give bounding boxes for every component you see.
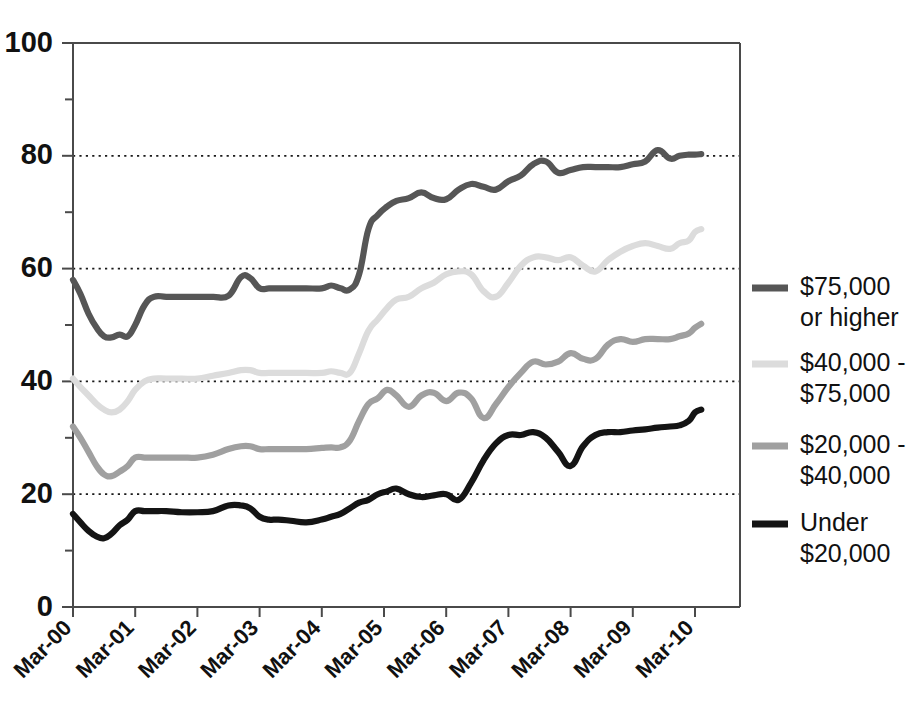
- data-series: [73, 150, 701, 538]
- x-axis-label-Mar-10: Mar-10: [631, 615, 699, 683]
- series-line-20-000-40-000: [73, 324, 701, 477]
- x-axis-label-Mar-08: Mar-08: [506, 615, 574, 683]
- legend-label-0-line1: $75,000: [800, 272, 890, 300]
- x-axis-label-Mar-00: Mar-00: [9, 615, 77, 683]
- x-axis-label-Mar-02: Mar-02: [133, 615, 201, 683]
- y-axis-label-80: 80: [21, 138, 53, 170]
- y-axis-tick-labels: 100806040200: [5, 26, 53, 622]
- legend-label-3-line1: Under: [800, 508, 868, 536]
- y-axis-label-60: 60: [21, 251, 53, 283]
- x-axis-label-Mar-07: Mar-07: [444, 615, 512, 683]
- legend-label-0-line2: or higher: [800, 303, 899, 331]
- x-axis-label-Mar-09: Mar-09: [569, 615, 637, 683]
- y-axis-label-0: 0: [37, 590, 53, 622]
- x-axis-label-Mar-05: Mar-05: [320, 615, 388, 683]
- legend-label-2-line1: $20,000 -: [800, 430, 906, 458]
- legend-label-1-line1: $40,000 -: [800, 348, 906, 376]
- gridlines: [73, 156, 740, 494]
- x-axis-label-Mar-06: Mar-06: [382, 615, 450, 683]
- y-axis-label-20: 20: [21, 477, 53, 509]
- legend-label-3-line2: $20,000: [800, 539, 890, 567]
- y-axis-label-40: 40: [21, 364, 53, 396]
- x-axis-label-Mar-03: Mar-03: [195, 615, 263, 683]
- x-axis-label-Mar-04: Mar-04: [258, 614, 326, 682]
- x-axis-tick-labels: Mar-00Mar-01Mar-02Mar-03Mar-04Mar-05Mar-…: [9, 614, 699, 682]
- chart-legend: $75,000or higher$40,000 -$75,000$20,000 …: [752, 272, 906, 567]
- series-line-40-000-75-000: [73, 229, 701, 412]
- line-chart: 100806040200 Mar-00Mar-01Mar-02Mar-03Mar…: [0, 0, 915, 717]
- axes: [73, 43, 740, 607]
- y-axis-label-100: 100: [5, 26, 53, 58]
- legend-label-2-line2: $40,000: [800, 461, 890, 489]
- series-line-under-20-000: [73, 410, 701, 539]
- legend-label-1-line2: $75,000: [800, 379, 890, 407]
- x-axis-label-Mar-01: Mar-01: [71, 615, 139, 683]
- axis-ticks: [62, 43, 695, 617]
- chart-container: 100806040200 Mar-00Mar-01Mar-02Mar-03Mar…: [0, 0, 915, 717]
